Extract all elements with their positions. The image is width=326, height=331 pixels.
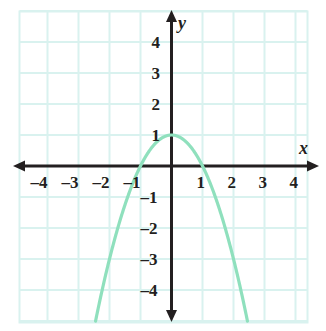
x-tick-label-1: 1 — [197, 174, 206, 191]
x-tick-label--2: –2 — [93, 174, 110, 191]
y-tick-label-neg1: –1 — [141, 189, 158, 206]
y-tick-label-neg3: –3 — [141, 251, 158, 268]
x-tick-label-2: 2 — [228, 174, 237, 191]
y-tick-label-3: 3 — [152, 65, 161, 82]
x-tick-label--4: –4 — [31, 174, 48, 191]
x-tick-label--1: –1 — [124, 174, 141, 191]
x-tick-label--3: –3 — [62, 174, 79, 191]
y-tick-label-neg2: –2 — [141, 220, 158, 237]
coordinate-plane-svg — [0, 0, 326, 331]
y-tick-label-neg4: –4 — [141, 282, 158, 299]
x-tick-label-3: 3 — [259, 174, 268, 191]
y-axis-name-label: y — [178, 14, 186, 32]
graph-figure: –4–3–2–112344321–1–2–3–4 x y — [0, 0, 326, 331]
y-tick-label-4: 4 — [152, 34, 161, 51]
y-tick-label-1: 1 — [152, 127, 161, 144]
y-tick-label-2: 2 — [152, 96, 161, 113]
x-tick-label-4: 4 — [290, 174, 299, 191]
x-axis-name-label: x — [299, 139, 308, 157]
